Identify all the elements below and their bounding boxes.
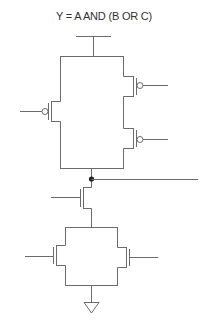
cmos-schematic [0, 0, 208, 332]
inversion-bubble-icon [137, 83, 143, 89]
pmos-left [20, 56, 61, 168]
vdd-supply [60, 36, 124, 57]
pmos-right-bottom [124, 128, 169, 168]
ground-icon [84, 285, 99, 313]
nmos-pdn-left [25, 227, 66, 285]
inversion-bubble-icon [42, 109, 48, 115]
nmos-series [51, 187, 92, 227]
pmos-right-top [124, 56, 169, 129]
nmos-pdn-right [118, 227, 159, 285]
inversion-bubble-icon [137, 137, 143, 143]
